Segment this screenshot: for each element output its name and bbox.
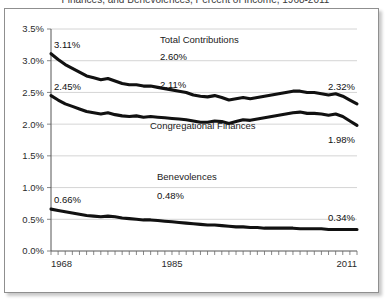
y-tick-label: 0.5% — [22, 214, 44, 225]
gridlines — [47, 29, 357, 251]
x-tick-label: 1968 — [51, 258, 72, 269]
y-tick-label: 3.0% — [22, 55, 44, 66]
y-tick-label: 3.5% — [22, 23, 44, 34]
series-line — [51, 54, 357, 104]
x-tick-label: 2011 — [337, 258, 357, 269]
chart-frame: 0.0%0.5%1.0%1.5%2.0%2.5%3.0%3.5% 1968198… — [4, 8, 379, 293]
label-total-start: 3.11% — [54, 39, 81, 50]
label-total-mid: 2.60% — [160, 51, 187, 62]
label-benevolences-start: 0.66% — [54, 194, 81, 205]
y-tick-label: 1.5% — [22, 150, 44, 161]
line-chart: 0.0%0.5%1.0%1.5%2.0%2.5%3.0%3.5% 1968198… — [5, 9, 378, 292]
y-tick-label: 1.0% — [22, 182, 44, 193]
label-benevolences-mid: 0.48% — [157, 190, 184, 201]
x-axis-tick-labels: 196819852011 — [51, 258, 357, 269]
label-congregational-end: 1.98% — [328, 134, 355, 145]
y-tick-label: 2.5% — [22, 87, 44, 98]
y-tick-label: 2.0% — [22, 119, 44, 130]
series-annotations: 3.11%2.45%0.66%Total Contributions2.60%2… — [54, 34, 356, 223]
annotation-benevolences: Benevolences — [157, 171, 217, 182]
label-congregational-start: 2.45% — [54, 81, 81, 92]
y-axis-tick-labels: 0.0%0.5%1.0%1.5%2.0%2.5%3.0%3.5% — [22, 23, 44, 256]
annotation-congregational-finances: Congregational Finances — [150, 120, 256, 131]
label-benevolences-end: 0.34% — [328, 212, 355, 223]
x-axis — [51, 251, 357, 255]
label-congregational-mid: 2.11% — [160, 79, 187, 90]
label-total-end: 2.32% — [328, 81, 355, 92]
series-lines — [51, 54, 357, 230]
y-tick-label: 0.0% — [22, 245, 44, 256]
annotation-total-contributions: Total Contributions — [160, 34, 239, 45]
page-title: Finances, and Benevolences, Percent of I… — [0, 0, 391, 5]
x-tick-label: 1985 — [161, 258, 182, 269]
